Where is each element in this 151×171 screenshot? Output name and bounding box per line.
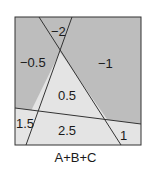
label-center: 0.5 [58,88,76,103]
label-bottom-center: 2.5 [58,123,76,138]
region-diagram: −2 −0.5 −1 0.5 1.5 2.5 1 [0,0,151,150]
label-bottom-right: 1 [120,128,127,143]
label-right: −1 [98,56,113,71]
label-bottom-left: 1.5 [16,116,34,131]
caption: A+B+C [0,150,151,165]
label-top-small: −2 [51,24,66,39]
label-left: −0.5 [20,55,46,70]
